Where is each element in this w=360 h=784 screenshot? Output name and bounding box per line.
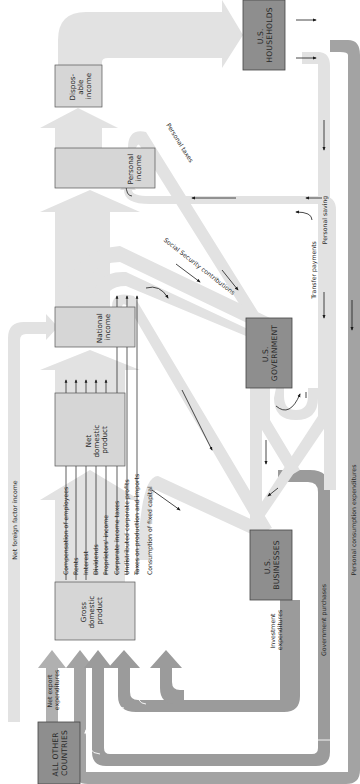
personal-saving-flow: [254, 52, 330, 520]
label-transfer-payments: Transfer payments: [310, 241, 318, 300]
label-rents: Rents: [72, 558, 79, 575]
ni-label-2: income: [103, 313, 112, 340]
di-to-households-arrow: [58, 0, 243, 68]
households-label-1: U.S.: [256, 28, 265, 44]
label-dividends: Dividends: [92, 544, 99, 575]
label-taxes-production-imports: Taxes on production and imports: [133, 474, 141, 576]
other-countries-label-2: COUNTRIES: [60, 730, 69, 776]
circular-flow-diagram: Gross domestic product Net domestic prod…: [0, 0, 360, 784]
label-undistributed-profits: Undistributed corporate profits: [123, 479, 131, 575]
label-interest: Interest: [82, 551, 89, 575]
svg-text:ALL OTHER COUNTRIES: ALL OTHER COUNTRIES: [51, 730, 69, 777]
label-investment-1: Investment: [269, 613, 276, 649]
svg-text:Investment expenditures: Investment expenditures: [269, 610, 284, 650]
label-personal-consumption: Personal consumption expenditures: [350, 465, 358, 576]
households-label-2: HOUSEHOLDS: [265, 7, 274, 62]
transfer-hook-flow: [274, 388, 318, 420]
ndp-label-3: product: [100, 426, 109, 454]
label-net-export-2: expenditures: [53, 670, 61, 710]
other-countries-label-1: ALL OTHER: [51, 732, 60, 777]
label-personal-saving: Personal saving: [321, 196, 329, 245]
svg-text:Net export expenditures: Net export expenditures: [46, 670, 61, 710]
di-label-3: income: [84, 72, 93, 99]
businesses-label-2: BUSINESSES: [272, 540, 281, 590]
businesses-label-1: U.S.: [263, 558, 272, 574]
svg-text:Personal income: Personal income: [126, 152, 143, 185]
label-government-purchases: Government purchases: [320, 584, 328, 656]
label-compensation: Compensation of employees: [62, 487, 70, 575]
inner-expenditure-loop: [150, 650, 184, 704]
label-proprietors-income: Proprietors' income: [102, 515, 110, 575]
svg-text:National income: National income: [95, 311, 112, 343]
label-investment-2: expenditures: [276, 610, 284, 650]
label-personal-taxes: Personal taxes: [165, 122, 195, 164]
label-net-foreign-factor-income: Net foreign factor income: [11, 480, 19, 559]
ndp-to-ni-arrow: [40, 350, 140, 393]
government-label-1: U.S.: [261, 346, 270, 362]
gdp-label-3: product: [95, 597, 104, 625]
pi-label-2: income: [134, 154, 143, 181]
government-label-2: GOVERNMENT: [270, 325, 279, 382]
label-consumption-fixed-capital: Consumption of fixed capital: [146, 486, 154, 575]
pi-to-di-arrow: [40, 108, 118, 148]
label-corporate-income-taxes: Corporate income taxes: [113, 501, 121, 575]
ndp-box: [55, 393, 125, 466]
